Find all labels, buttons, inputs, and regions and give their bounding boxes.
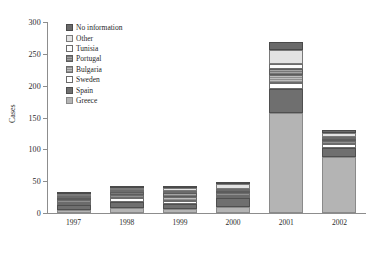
bar-2000: [216, 182, 250, 213]
segment-greece-1999: [163, 209, 197, 213]
segment-greece-1997: [57, 210, 91, 213]
legend-label-portugal: Portugal: [76, 54, 101, 63]
segment-bulgaria-2001: [269, 75, 303, 83]
x-tick-label-1998: 1998: [119, 218, 134, 227]
legend-label-other: Other: [76, 34, 93, 43]
legend-item-greece: Greece: [66, 96, 122, 105]
legend-label-bulgaria: Bulgaria: [76, 65, 102, 74]
bar-1998: [110, 186, 144, 213]
segment-other-2001: [269, 50, 303, 64]
chart-legend: No informationOtherTunisiaPortugalBulgar…: [66, 23, 122, 105]
legend-item-tunisia: Tunisia: [66, 44, 122, 53]
bar-2002: [322, 130, 356, 213]
x-tick-label-2000: 2000: [226, 218, 241, 227]
legend-label-greece: Greece: [76, 96, 97, 105]
legend-swatch-bulgaria: [66, 66, 73, 73]
x-axis-line: [47, 213, 366, 214]
x-tick-label-1999: 1999: [172, 218, 187, 227]
legend-item-sweden: Sweden: [66, 75, 122, 84]
legend-swatch-portugal: [66, 55, 73, 62]
legend-swatch-other: [66, 35, 73, 42]
legend-item-no-information: No information: [66, 23, 122, 32]
legend-swatch-greece: [66, 97, 73, 104]
y-tick-label: 250: [28, 49, 41, 58]
legend-swatch-no-information: [66, 24, 73, 31]
y-tick-label: 50: [33, 177, 41, 186]
segment-spain-2002: [322, 148, 356, 157]
y-tick-label: 150: [28, 113, 41, 122]
y-tick-label: 300: [28, 18, 41, 27]
legend-label-sweden: Sweden: [76, 75, 100, 84]
legend-item-spain: Spain: [66, 85, 122, 94]
legend-label-spain: Spain: [76, 86, 93, 95]
legend-item-bulgaria: Bulgaria: [66, 65, 122, 74]
segment-greece-2002: [322, 157, 356, 213]
segment-greece-2001: [269, 113, 303, 213]
y-tick-label: 0: [37, 209, 41, 218]
segment-spain-2001: [269, 89, 303, 113]
x-tick-label-2002: 2002: [332, 218, 347, 227]
y-tick-label: 100: [28, 145, 41, 154]
bar-2001: [269, 42, 303, 213]
legend-item-portugal: Portugal: [66, 54, 122, 63]
segment-greece-1998: [110, 208, 144, 213]
y-tick-mark: [43, 213, 47, 214]
bar-1999: [163, 186, 197, 213]
segment-no-information-2001: [269, 42, 303, 50]
legend-swatch-spain: [66, 87, 73, 94]
legend-swatch-tunisia: [66, 45, 73, 52]
x-tick-label-1997: 1997: [66, 218, 81, 227]
legend-swatch-sweden: [66, 76, 73, 83]
bar-1997: [57, 192, 91, 213]
legend-item-other: Other: [66, 33, 122, 42]
y-axis-title: Cases: [8, 104, 17, 123]
legend-label-tunisia: Tunisia: [76, 44, 98, 53]
y-tick-label: 200: [28, 81, 41, 90]
segment-spain-2000: [216, 198, 250, 207]
x-tick-label-2001: 2001: [279, 218, 294, 227]
legend-label-no-information: No information: [76, 23, 122, 32]
segment-greece-2000: [216, 207, 250, 213]
stacked-bar-chart: 050100150200250300 199719981999200020012…: [0, 0, 380, 256]
